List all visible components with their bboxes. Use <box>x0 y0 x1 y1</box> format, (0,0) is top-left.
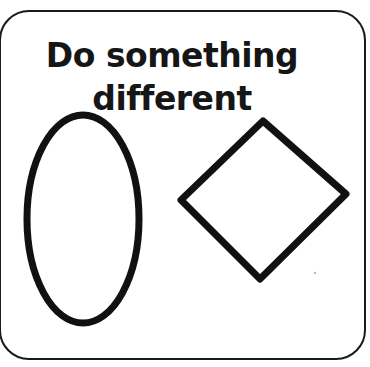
shapes-illustration <box>0 0 370 367</box>
scan-speck <box>314 272 316 274</box>
oval-shape <box>27 115 139 323</box>
diamond-shape <box>181 121 346 279</box>
